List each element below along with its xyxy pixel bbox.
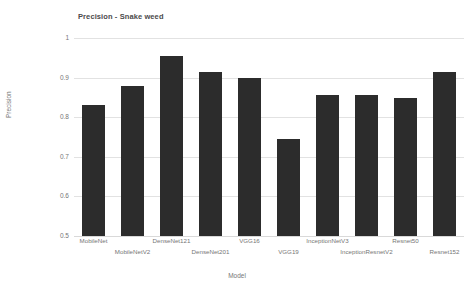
precision-bar-chart: Precision - Snake weed Precision 0.50.60… (0, 0, 475, 292)
x-axis-tick-labels: MobileNetMobileNetV2DenseNet121DenseNet2… (0, 0, 475, 292)
x-tick-label-mobilenetv2: MobileNetV2 (115, 248, 150, 255)
x-tick-label-resnet50: Resnet50 (392, 237, 419, 244)
x-tick-label-inceptionnetv3: InceptionNetV3 (306, 237, 348, 244)
x-tick-label-vgg19: VGG19 (278, 248, 299, 255)
x-axis-title: Model (228, 272, 246, 279)
x-tick-label-densenet201: DenseNet201 (192, 248, 230, 255)
x-tick-label-resnet152: Resnet152 (430, 248, 460, 255)
x-tick-label-inceptionresnetv2: InceptionResnetV2 (340, 248, 392, 255)
x-tick-label-vgg16: VGG16 (239, 237, 260, 244)
x-tick-label-densenet121: DenseNet121 (153, 237, 191, 244)
x-tick-label-mobilenet: MobileNet (80, 237, 108, 244)
